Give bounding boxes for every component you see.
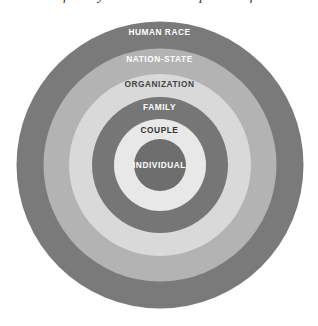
ring-label-individual: INDIVIDUAL bbox=[133, 161, 186, 169]
figure-caption-text: Figure 1.1 Levels of analysis: the neste… bbox=[0, 0, 318, 4]
ring-individual: INDIVIDUAL bbox=[134, 139, 186, 191]
concentric-circles-diagram: HUMAN RACE NATION-STATE ORGANIZATION FAM… bbox=[16, 18, 303, 312]
figure-caption-strip: Figure 1.1 Levels of analysis: the neste… bbox=[0, 0, 318, 13]
